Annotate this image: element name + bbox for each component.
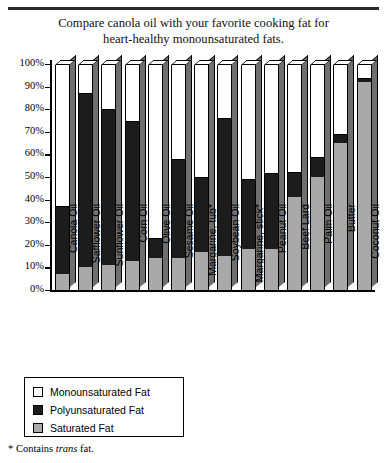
bar-segment-monounsaturated xyxy=(288,64,301,172)
x-axis-label: Coconut Oil xyxy=(370,204,381,294)
bar-segment-monounsaturated xyxy=(334,64,347,134)
legend-label: Saturated Fat xyxy=(50,422,114,434)
y-axis-tick-label: 60% xyxy=(0,148,44,158)
bar-segment-monounsaturated xyxy=(56,64,69,206)
x-axis-label: Margarine, stick* xyxy=(254,204,265,294)
bar-segment-saturated xyxy=(126,261,139,290)
y-axis-tick-label: 10% xyxy=(0,261,44,271)
x-axis-label: Butter xyxy=(346,204,357,294)
legend-swatch-mono xyxy=(33,387,43,397)
bar-segment-monounsaturated xyxy=(172,64,185,159)
x-axis-label: Corn Oil xyxy=(138,204,149,294)
x-axis-label: Beef Lard xyxy=(300,204,311,294)
bar-segment-monounsaturated xyxy=(265,64,278,172)
y-axis-tick-label: 50% xyxy=(0,171,44,181)
bar-segment-monounsaturated xyxy=(126,64,139,121)
y-axis-tick-label: 0% xyxy=(0,284,44,294)
x-axis-label: Sesame Oil xyxy=(184,204,195,294)
legend-item: Monounsaturated Fat xyxy=(33,385,150,399)
x-axis-label: Safflower Oil xyxy=(91,204,102,294)
y-axis-tick-label: 80% xyxy=(0,103,44,113)
legend-label: Monounsaturated Fat xyxy=(50,386,150,398)
bar-segment-saturated xyxy=(265,249,278,290)
y-axis-tick-label: 20% xyxy=(0,239,44,249)
y-axis-tick-label: 70% xyxy=(0,126,44,136)
y-axis-tick-label: 30% xyxy=(0,216,44,226)
footnote-italic-term: trans xyxy=(56,443,78,454)
x-axis-label: Peanut Oil xyxy=(277,204,288,294)
bar-segment-saturated xyxy=(149,258,162,290)
x-axis-label: Sunflower Oil xyxy=(114,204,125,294)
legend-swatch-poly xyxy=(33,405,43,415)
bar-segment-polyunsaturated xyxy=(288,172,301,197)
legend-item: Saturated Fat xyxy=(33,421,114,435)
bar-segment-monounsaturated xyxy=(79,64,92,93)
footnote-suffix: fat. xyxy=(77,443,93,454)
y-axis-tick-label: 40% xyxy=(0,194,44,204)
bar-segment-monounsaturated xyxy=(358,64,371,78)
bar-segment-monounsaturated xyxy=(102,64,115,109)
bar-segment-polyunsaturated xyxy=(311,157,324,177)
chart-legend: Monounsaturated FatPolyunsaturated FatSa… xyxy=(24,377,184,437)
bar-segment-monounsaturated xyxy=(311,64,324,157)
bar-segment-monounsaturated xyxy=(242,64,255,179)
x-axis-label: Margarine, tub* xyxy=(207,204,218,294)
y-axis-tick-label: 90% xyxy=(0,81,44,91)
footnote: * Contains trans fat. xyxy=(8,443,94,454)
bar-segment-polyunsaturated xyxy=(358,78,371,83)
bar-segment-monounsaturated xyxy=(195,64,208,177)
legend-item: Polyunsaturated Fat xyxy=(33,403,144,417)
x-axis-label: Soybean Oil xyxy=(230,204,241,294)
x-axis-label: Olive Oil xyxy=(161,204,172,294)
x-axis-label: Palm Oil xyxy=(323,204,334,294)
bar-segment-polyunsaturated xyxy=(334,134,347,143)
x-axis-label: Canola Oil xyxy=(68,204,79,294)
legend-label: Polyunsaturated Fat xyxy=(50,404,144,416)
y-axis-tick-label: 100% xyxy=(0,58,44,68)
bar-segment-monounsaturated xyxy=(218,64,231,118)
footnote-prefix: * Contains xyxy=(8,443,56,454)
legend-swatch-sat xyxy=(33,423,43,433)
